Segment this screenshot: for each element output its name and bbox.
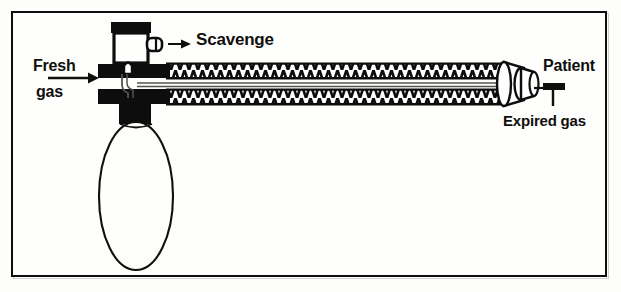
diagram-screenshot: Fresh gas Scavenge Patient Expired gas <box>0 0 621 292</box>
corrugated-tube-lower <box>166 90 504 105</box>
inner-coaxial-tube <box>137 83 505 87</box>
fresh-gas-label-line1: Fresh <box>33 58 76 75</box>
fresh-gas-nozzle-icon <box>124 63 132 75</box>
expired-gas-label: Expired gas <box>503 113 586 129</box>
reservoir-bag <box>99 122 173 270</box>
scavenge-label: Scavenge <box>196 31 274 49</box>
lower-connector-block <box>98 89 170 124</box>
patient-label: Patient <box>543 58 595 75</box>
patient-connector <box>497 62 539 106</box>
upper-connector-block <box>98 64 170 78</box>
corrugated-tube-upper <box>166 64 504 79</box>
scavenge-arrow-icon <box>168 40 191 49</box>
valve-side-port-icon <box>147 38 162 51</box>
fresh-gas-label-line2: gas <box>36 84 63 101</box>
diagram-artwork <box>0 0 621 292</box>
valve-cap-icon <box>111 22 151 33</box>
